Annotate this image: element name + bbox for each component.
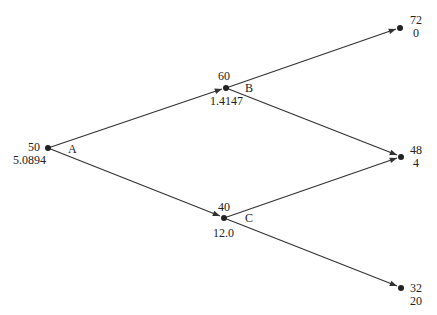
node-c-label: C xyxy=(245,212,253,225)
node-c-value: 12.0 xyxy=(213,227,234,240)
edge-a-b xyxy=(48,89,222,148)
edge-a-c xyxy=(48,148,220,216)
node-b-value: 1.4147 xyxy=(210,95,243,108)
node-b xyxy=(223,85,229,91)
node-b-price: 60 xyxy=(212,70,236,83)
node-ud-value: 4 xyxy=(408,157,424,170)
node-ud xyxy=(398,154,404,160)
node-c-price: 40 xyxy=(212,201,236,214)
edge-c-ud xyxy=(224,158,397,218)
node-uu-value: 0 xyxy=(408,27,424,40)
node-a-label: A xyxy=(68,143,77,156)
node-dd-value: 20 xyxy=(408,295,424,308)
edge-c-dd xyxy=(224,218,397,286)
node-c xyxy=(221,215,227,221)
node-dd xyxy=(398,285,404,291)
node-a-value: 5.0894 xyxy=(0,154,46,167)
node-uu xyxy=(397,25,403,31)
edge-b-uu xyxy=(226,29,396,88)
edge-b-ud xyxy=(226,88,397,155)
node-b-label: B xyxy=(245,82,253,95)
tree-diagram xyxy=(0,0,437,315)
node-a xyxy=(45,145,51,151)
